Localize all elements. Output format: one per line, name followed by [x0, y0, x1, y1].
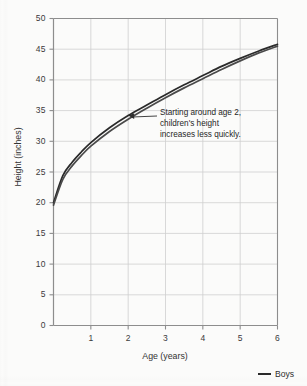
y-tick-label: 0 [18, 320, 46, 330]
x-tick-label: 3 [156, 333, 176, 343]
x-axis-title: Age (years) [53, 351, 277, 361]
x-tick-label: 2 [118, 333, 138, 343]
legend-label-boys: Boys [275, 369, 294, 379]
annotation-line-3: increases less quickly. [160, 129, 280, 140]
y-tick-label: 10 [18, 259, 46, 269]
plot-canvas [0, 0, 307, 386]
tick-marks-group [50, 19, 278, 330]
y-tick-label: 5 [18, 289, 46, 299]
y-axis-title: Height (inches) [13, 102, 23, 212]
annotation-leader-line [128, 113, 157, 119]
y-tick-label: 50 [18, 13, 46, 23]
annotation-slowing-growth: Starting around age 2, children's height… [160, 107, 280, 141]
annotation-leader [132, 116, 157, 117]
height-growth-chart: 05101520253035404550 123456 Height (inch… [0, 0, 307, 386]
y-tick-label: 45 [18, 44, 46, 54]
y-tick-label: 15 [18, 228, 46, 238]
y-tick-label: 40 [18, 74, 46, 84]
gridlines-group [54, 19, 278, 326]
annotation-line-2: children's height [160, 118, 280, 129]
x-tick-label: 6 [268, 333, 288, 343]
annotation-line-1: Starting around age 2, [160, 107, 280, 118]
legend-swatch-boys [258, 373, 271, 376]
x-tick-label: 5 [230, 333, 250, 343]
x-tick-label: 4 [193, 333, 213, 343]
x-tick-label: 1 [81, 333, 101, 343]
chart-legend: Boys [258, 369, 294, 379]
